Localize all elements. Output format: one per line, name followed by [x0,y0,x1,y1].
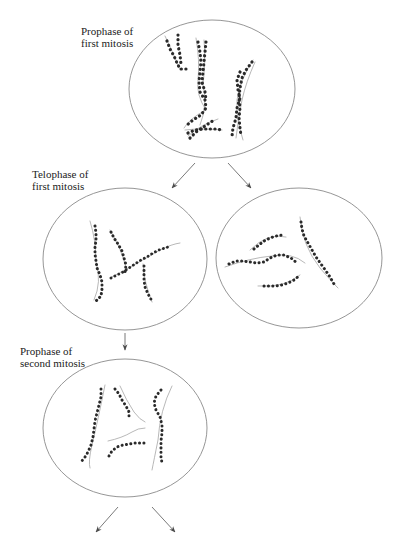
cell-prophase-first [129,20,295,158]
cell-telophase-first-left [43,188,207,330]
label-line: first mitosis [32,180,88,192]
arrow-out-left [96,507,118,532]
arrow-to-telophase-left [172,163,195,188]
arrow-to-telophase-right [228,163,251,188]
label-prophase-second: Prophase of second mitosis [20,345,85,369]
label-line: Prophase of [20,345,85,357]
cell-prophase-second [43,359,207,497]
label-line: first mitosis [81,37,133,49]
chromosomes-prophase-first [165,35,255,140]
cell-telophase-first-right [216,188,382,328]
chromosomes-telophase-left [90,221,180,302]
diagram-canvas [0,0,407,558]
label-line: Prophase of [81,25,133,37]
arrows [96,163,251,532]
label-telophase-first: Telophase of first mitosis [32,168,88,192]
chromosomes-telophase-right [225,217,338,288]
label-line: Telophase of [32,168,88,180]
label-prophase-first: Prophase of first mitosis [81,25,133,49]
arrow-out-right [152,507,175,532]
chromosomes-prophase-second [81,385,172,470]
label-line: second mitosis [20,357,85,369]
meiosis-diagram: Prophase of first mitosis Telophase of f… [0,0,407,558]
